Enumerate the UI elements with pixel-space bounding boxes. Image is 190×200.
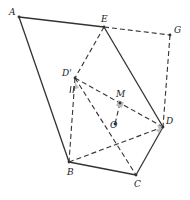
point-c — [135, 174, 138, 177]
tick-mark-1 — [70, 86, 71, 93]
segment-dp-c — [75, 78, 136, 175]
label-a: A — [8, 7, 16, 17]
label-b: B — [66, 167, 74, 177]
point-g — [169, 34, 172, 37]
point-d — [162, 126, 165, 129]
solid-edges — [19, 17, 163, 175]
point-b — [68, 161, 71, 164]
tick-mark-2 — [73, 86, 74, 93]
segment-b-c — [69, 162, 136, 175]
right-angle-mark-dprime — [75, 82, 79, 89]
geometry-figure: AEGD'MODBC — [0, 0, 190, 200]
segment-d-c — [136, 127, 163, 175]
segment-e-d — [104, 27, 163, 127]
label-m: M — [115, 89, 126, 99]
point-dp — [74, 77, 77, 80]
segment-a-b — [19, 17, 69, 162]
label-c: C — [134, 179, 141, 189]
segment-b-d — [69, 127, 163, 162]
label-dp: D' — [61, 68, 72, 78]
point-m — [119, 102, 122, 105]
label-d: D — [165, 116, 173, 126]
label-g: G — [174, 25, 181, 35]
label-e: E — [100, 14, 108, 24]
segment-g-d — [163, 35, 170, 127]
segment-e-dp — [75, 27, 104, 78]
segment-e-g — [104, 27, 170, 35]
vertex-labels: AEGD'MODBC — [8, 7, 181, 189]
label-o: O — [110, 120, 118, 130]
point-a — [18, 16, 21, 19]
segment-a-e — [19, 17, 104, 27]
point-e — [103, 26, 106, 29]
